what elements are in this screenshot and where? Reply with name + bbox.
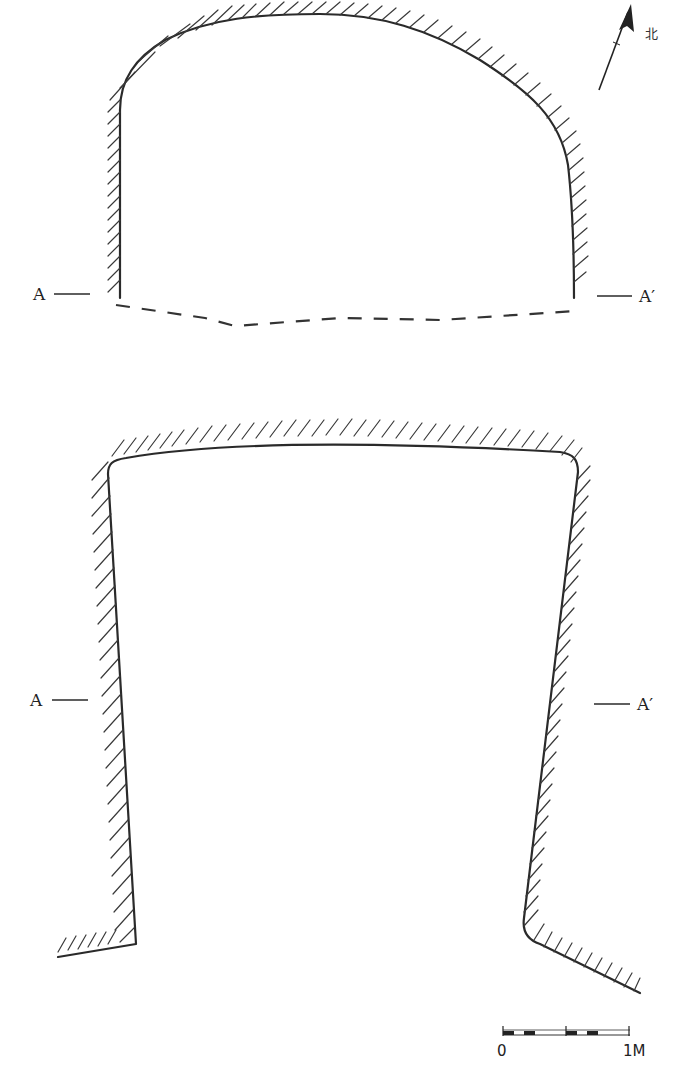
section-label-right: A′ [636,694,653,714]
north-label: 北 [645,26,658,41]
plan-outline [120,14,574,298]
plan-section-label-left: A [32,284,46,304]
north-arrow-icon [599,4,634,90]
plan-section-label-right: A′ [638,286,655,306]
section-view: A A′ [29,419,653,993]
scale-bar: 0 1M [497,1026,646,1060]
plan-opening-dashed-line [116,305,575,326]
scale-end-label: 1M [623,1042,646,1060]
plan-hatching [108,2,588,292]
section-label-left: A [29,690,43,710]
scale-start-label: 0 [497,1042,507,1060]
section-hatching [58,419,640,991]
drawing-canvas: 北 [0,0,674,1086]
plan-view: A A′ [32,2,655,326]
section-outline [58,445,640,994]
